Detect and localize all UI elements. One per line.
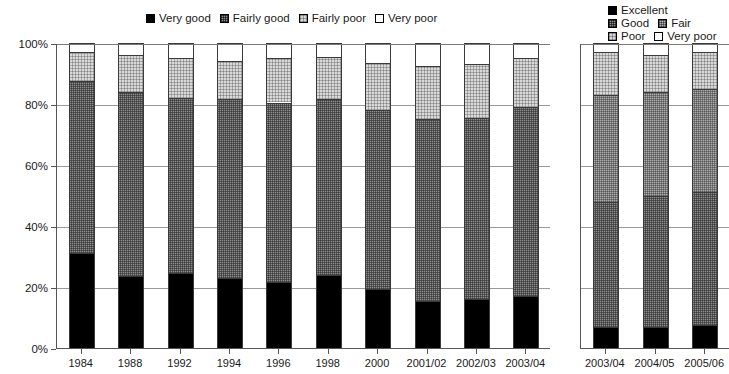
- bar-segment[interactable]: [168, 58, 194, 98]
- bar-segment[interactable]: [365, 289, 391, 348]
- x-axis-label: 2003/04: [505, 357, 545, 369]
- left-chart-plot-area: [56, 44, 550, 349]
- bar-segment[interactable]: [266, 103, 292, 283]
- stacked-bar[interactable]: [464, 43, 490, 348]
- bar-segment[interactable]: [415, 119, 441, 300]
- legend-label-very-good: Very good: [159, 12, 211, 25]
- bar-segment[interactable]: [593, 52, 619, 95]
- bar-segment[interactable]: [415, 43, 441, 66]
- bar-segment[interactable]: [69, 253, 95, 348]
- bar-segment[interactable]: [464, 118, 490, 299]
- bar-segment[interactable]: [593, 327, 619, 348]
- stacked-bar[interactable]: [593, 43, 619, 348]
- legend-label-excellent: Excellent: [621, 4, 668, 17]
- bar-segment[interactable]: [118, 92, 144, 277]
- quality-rating-legend: Very good Fairly good Fairly poor Very p…: [146, 12, 437, 25]
- y-tick-label: 80%: [25, 99, 48, 111]
- x-tick-mark: [427, 349, 428, 354]
- bar-segment[interactable]: [217, 43, 243, 61]
- legend-item-very-poor: Very poor: [654, 30, 716, 43]
- bar-segment[interactable]: [69, 81, 95, 253]
- bar-segment[interactable]: [118, 55, 144, 92]
- bar-segment[interactable]: [168, 273, 194, 348]
- x-axis-label: 1992: [167, 357, 191, 369]
- legend-row: Very good Fairly good Fairly poor Very p…: [146, 12, 437, 25]
- x-axis-label: 2005/06: [684, 357, 724, 369]
- bar-segment[interactable]: [513, 58, 539, 107]
- bar-segment[interactable]: [69, 52, 95, 81]
- stacked-bar[interactable]: [217, 43, 243, 348]
- x-axis-label: 2000: [365, 357, 389, 369]
- bar-segment[interactable]: [513, 107, 539, 296]
- bar-segment[interactable]: [316, 57, 342, 100]
- stacked-bar[interactable]: [692, 43, 718, 348]
- bar-segment[interactable]: [415, 66, 441, 119]
- x-axis-label: 2003/04: [585, 357, 625, 369]
- legend-swatch-very-poor-icon: [654, 32, 663, 41]
- x-tick-mark: [328, 349, 329, 354]
- legend-label-fair: Fair: [671, 17, 691, 30]
- legend-swatch-fair-icon: [658, 19, 667, 28]
- bar-segment[interactable]: [692, 192, 718, 325]
- legend-row-excellent: Excellent: [608, 4, 717, 17]
- bar-segment[interactable]: [217, 99, 243, 277]
- stacked-bar[interactable]: [316, 43, 342, 348]
- legend-swatch-good-icon: [608, 19, 617, 28]
- bar-segment[interactable]: [692, 325, 718, 348]
- bar-segment[interactable]: [643, 327, 669, 348]
- stacked-bar[interactable]: [415, 43, 441, 348]
- x-tick-mark: [525, 349, 526, 354]
- stacked-bar[interactable]: [69, 43, 95, 348]
- bar-segment[interactable]: [316, 99, 342, 274]
- bar-segment[interactable]: [316, 275, 342, 348]
- bar-segment[interactable]: [316, 43, 342, 57]
- legend-item-fairly-good: Fairly good: [220, 12, 290, 25]
- plot-top-rule: [581, 44, 729, 45]
- x-tick-mark: [229, 349, 230, 354]
- x-tick-mark: [476, 349, 477, 354]
- bar-segment[interactable]: [643, 196, 669, 327]
- bar-segment[interactable]: [365, 43, 391, 63]
- bar-segment[interactable]: [513, 43, 539, 58]
- bar-segment[interactable]: [643, 55, 669, 92]
- bar-segment[interactable]: [415, 301, 441, 348]
- stacked-bar[interactable]: [118, 43, 144, 348]
- legend-item-very-good: Very good: [146, 12, 211, 25]
- bar-segment[interactable]: [692, 89, 718, 193]
- stacked-bar[interactable]: [365, 43, 391, 348]
- bar-segment[interactable]: [365, 63, 391, 110]
- bar-segment[interactable]: [593, 202, 619, 327]
- y-tick-label: 40%: [25, 221, 48, 233]
- bar-segment[interactable]: [513, 296, 539, 348]
- legend-row-good-fair: Good Fair: [608, 17, 717, 30]
- bar-segment[interactable]: [643, 92, 669, 196]
- x-axis-label: 1994: [217, 357, 241, 369]
- bar-segment[interactable]: [593, 95, 619, 202]
- stacked-bar[interactable]: [266, 43, 292, 348]
- legend-swatch-very-poor-icon: [375, 14, 384, 23]
- bar-segment[interactable]: [266, 58, 292, 102]
- x-tick-mark: [605, 349, 606, 354]
- bar-segment[interactable]: [168, 43, 194, 58]
- bar-segment[interactable]: [464, 64, 490, 117]
- stacked-bar[interactable]: [513, 43, 539, 348]
- legend-swatch-excellent-icon: [608, 6, 617, 15]
- right-chart-plot-area: [580, 44, 729, 349]
- bar-segment[interactable]: [168, 98, 194, 273]
- x-tick-mark: [377, 349, 378, 354]
- bar-segment[interactable]: [217, 278, 243, 348]
- bar-segment[interactable]: [266, 282, 292, 348]
- stacked-bar[interactable]: [168, 43, 194, 348]
- condition-rating-legend: Excellent Good Fair Poor Very poor: [608, 4, 717, 43]
- bar-segment[interactable]: [365, 110, 391, 288]
- bar-segment[interactable]: [692, 52, 718, 89]
- bar-segment[interactable]: [464, 299, 490, 348]
- bar-segment[interactable]: [266, 43, 292, 58]
- bar-segment[interactable]: [217, 61, 243, 99]
- legend-swatch-fairly-poor-icon: [299, 14, 308, 23]
- stacked-bar[interactable]: [643, 43, 669, 348]
- x-axis-label: 1984: [68, 357, 92, 369]
- bar-segment[interactable]: [464, 43, 490, 64]
- bar-segment[interactable]: [118, 276, 144, 348]
- x-axis-label: 1998: [315, 357, 339, 369]
